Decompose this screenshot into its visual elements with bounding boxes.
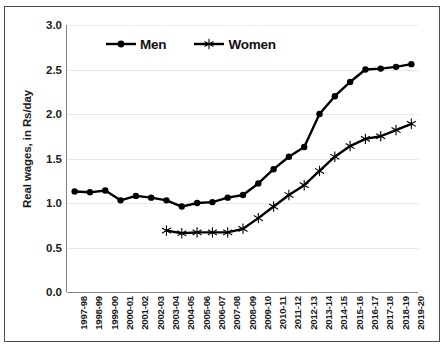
- x-tick-label: 2007-08: [231, 296, 242, 354]
- x-tick-label: 2013-14: [323, 296, 334, 354]
- x-tick-label: 1998-99: [93, 296, 104, 354]
- x-tick-label: 2000-01: [124, 296, 135, 354]
- x-tick-label: 2001-02: [139, 296, 150, 354]
- chart-legend: MenWomen: [104, 36, 276, 52]
- chart-figure: Real wages, in Rs/day 0.00.51.01.52.02.5…: [0, 0, 445, 355]
- x-tick-label: 2010-11: [277, 296, 288, 354]
- series-line-women: [166, 124, 411, 233]
- y-tick-label: 1.0: [20, 197, 62, 209]
- x-tick-label: 2016-17: [369, 296, 380, 354]
- y-tick-label: 1.5: [20, 153, 62, 165]
- y-tick-label: 2.0: [20, 108, 62, 120]
- y-tick-label: 0.0: [20, 286, 62, 298]
- x-tick-label: 2005-06: [201, 296, 212, 354]
- asterisk-icon: [192, 36, 226, 52]
- x-tick-label: 2006-07: [216, 296, 227, 354]
- x-axis-tick-labels: 1997-981998-991999-002000-012001-022002-…: [66, 296, 418, 354]
- x-tick-label: 2008-09: [247, 296, 258, 354]
- x-tick-label: 2019-20: [415, 296, 426, 354]
- x-tick-label: 1999-00: [109, 296, 120, 354]
- y-tick-label: 0.5: [20, 242, 62, 254]
- filled-circle-icon: [104, 36, 138, 52]
- y-axis-tick-labels: 0.00.51.01.52.02.53.0: [20, 0, 62, 355]
- data-series-layer: [67, 25, 419, 292]
- legend-label: Women: [228, 37, 276, 52]
- x-tick-label: 2011-12: [292, 296, 303, 354]
- series-line-men: [75, 64, 412, 206]
- y-tick-label: 3.0: [20, 19, 62, 31]
- x-tick-label: 2004-05: [185, 296, 196, 354]
- x-tick-label: 2018-19: [400, 296, 411, 354]
- y-tick-label: 2.5: [20, 64, 62, 76]
- x-tick-label: 2003-04: [170, 296, 181, 354]
- series-markers-men: [71, 61, 414, 210]
- x-tick-label: 2012-13: [308, 296, 319, 354]
- legend-entry-men: Men: [104, 36, 166, 52]
- gridline: [67, 292, 418, 293]
- x-tick-label: 2015-16: [354, 296, 365, 354]
- x-tick-label: 2009-10: [262, 296, 273, 354]
- x-tick-label: 1997-98: [78, 296, 89, 354]
- x-tick-label: 2002-03: [155, 296, 166, 354]
- legend-entry-women: Women: [192, 36, 276, 52]
- x-tick-label: 2014-15: [338, 296, 349, 354]
- plot-area: [66, 25, 418, 292]
- legend-label: Men: [140, 37, 166, 52]
- x-tick-label: 2017-18: [384, 296, 395, 354]
